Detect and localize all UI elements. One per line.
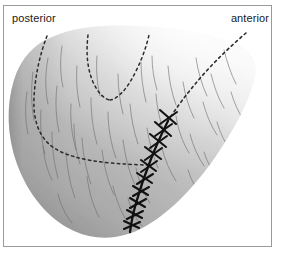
- scalp-illustration: [0, 0, 281, 257]
- label-posterior: posterior: [12, 13, 56, 24]
- scalp-surface: [0, 0, 281, 257]
- figure-root: posterior anterior: [0, 0, 281, 257]
- label-anterior: anterior: [231, 13, 269, 24]
